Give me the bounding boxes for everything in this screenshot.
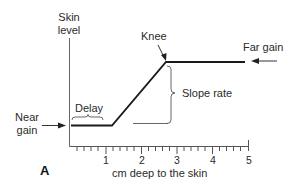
delay-label: Delay	[75, 102, 103, 115]
y-axis-label: Skin level	[54, 11, 84, 37]
x-tick-label-5: 5	[243, 154, 255, 166]
near-gain-label: Near gain	[12, 111, 42, 137]
knee-arrow-icon	[158, 45, 167, 61]
panel-label: A	[40, 164, 49, 177]
near-gain-arrow-icon	[42, 123, 66, 129]
near-gain-label-line2: gain	[12, 124, 42, 137]
near-gain-label-line1: Near	[12, 111, 42, 124]
tgc-diagram: Skin level Knee Far gain Slope rate Dela…	[0, 0, 301, 194]
knee-label: Knee	[141, 30, 167, 43]
far-gain-arrow-icon	[251, 58, 277, 64]
y-axis-label-line2: level	[54, 24, 84, 37]
slope-rate-label: Slope rate	[182, 87, 232, 100]
far-gain-label: Far gain	[243, 41, 283, 54]
x-tick-label-3: 3	[171, 154, 183, 166]
x-tick-label-4: 4	[207, 154, 219, 166]
y-axis-label-line1: Skin	[54, 11, 84, 24]
slope-rate-brace-icon	[167, 66, 175, 124]
x-tick-label-1: 1	[100, 154, 112, 166]
x-axis-label: cm deep to the skin	[112, 167, 207, 180]
delay-brace-icon	[72, 115, 103, 121]
x-tick-label-2: 2	[136, 154, 148, 166]
